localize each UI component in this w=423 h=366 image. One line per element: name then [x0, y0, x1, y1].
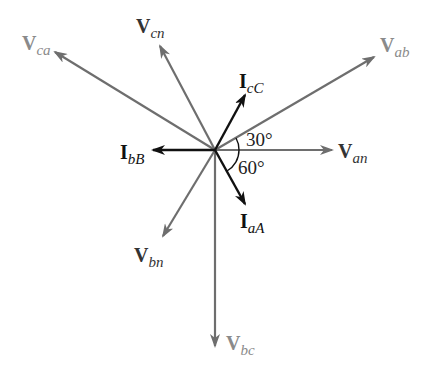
phasor-diagram: Van Vab Vca Vcn Vbn Vbc IcC IbB IaA 30° … — [0, 0, 423, 366]
phasor-Vbn-arrow — [163, 150, 215, 236]
label-Van: Van — [338, 140, 367, 166]
label-IaA: IaA — [240, 210, 265, 236]
label-Vab: Vab — [380, 34, 410, 60]
phasor-Vca-arrow — [55, 52, 215, 150]
label-Vbc: Vbc — [226, 332, 255, 358]
label-Vbn: Vbn — [134, 244, 163, 270]
label-IcC: IcC — [239, 70, 264, 96]
angle-arc-30 — [236, 138, 239, 150]
angle-label-60: 60° — [238, 157, 265, 178]
angle-label-30: 30° — [246, 129, 273, 150]
label-Vca: Vca — [22, 32, 51, 58]
label-IbB: IbB — [120, 141, 144, 167]
label-Vcn: Vcn — [136, 15, 165, 41]
